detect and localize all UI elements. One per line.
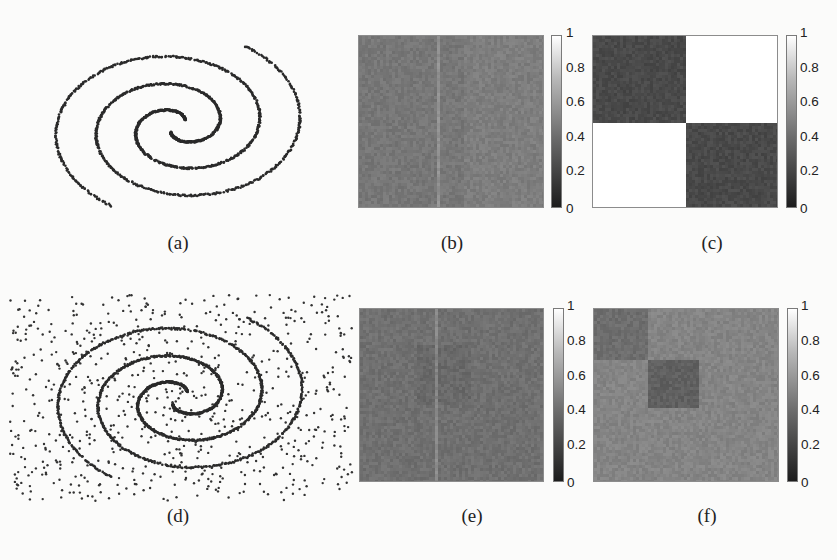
colorbar-tick-label: 0 (800, 202, 808, 216)
noisy-spiral-scatter-plot (0, 270, 355, 505)
colorbar-tick-label: 0 (801, 476, 809, 490)
colorbar-tick-label: 0.4 (801, 403, 820, 417)
colorbar-tick-label: 0.2 (800, 164, 819, 178)
colorbar-tick-label: 0.8 (566, 61, 585, 75)
subfigure-label: (f) (698, 505, 717, 527)
colorbar-tick-label: 0.2 (801, 438, 820, 452)
spiral-scatter-plot (0, 0, 340, 230)
colorbar-tick-label: 0.6 (567, 369, 586, 383)
subfigure-label: (b) (441, 232, 463, 254)
colorbar-tick-label: 0.8 (800, 61, 819, 75)
colorbar-tick-label: 1 (567, 299, 575, 313)
colorbar-tick-label: 0.8 (801, 334, 820, 348)
colorbar-tick-label: 0.8 (567, 334, 586, 348)
colorbar (787, 308, 798, 482)
colorbar-tick-label: 0.2 (567, 438, 586, 452)
colorbar-tick-label: 0.4 (566, 130, 585, 144)
colorbar-tick-label: 1 (801, 299, 809, 313)
subfigure-label: (e) (461, 505, 482, 527)
colorbar-tick-label: 0 (567, 476, 575, 490)
affinity-heatmap (358, 35, 544, 208)
colorbar-tick-label: 1 (800, 26, 808, 40)
colorbar-tick-label: 1 (566, 26, 574, 40)
colorbar (786, 35, 797, 208)
colorbar-tick-label: 0.6 (566, 95, 585, 109)
colorbar (553, 308, 564, 482)
colorbar-tick-label: 0 (566, 202, 574, 216)
affinity-heatmap (359, 308, 544, 482)
subfigure-label: (c) (701, 232, 722, 254)
colorbar-tick-label: 0.4 (800, 130, 819, 144)
colorbar-tick-label: 0.4 (567, 403, 586, 417)
colorbar-tick-label: 0.6 (801, 369, 820, 383)
colorbar-tick-label: 0.6 (800, 95, 819, 109)
colorbar-tick-label: 0.2 (566, 164, 585, 178)
subfigure-label: (a) (167, 232, 188, 254)
affinity-heatmap (592, 35, 778, 208)
colorbar (551, 35, 562, 208)
subfigure-label: (d) (167, 505, 189, 527)
affinity-heatmap (593, 308, 779, 482)
